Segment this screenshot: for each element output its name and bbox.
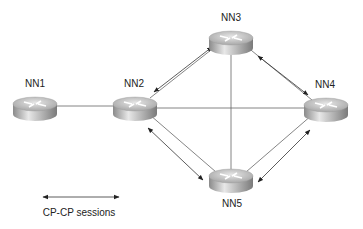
legend-label: CP-CP sessions xyxy=(43,207,116,218)
node-label-nn1: NN1 xyxy=(25,78,45,89)
link-nn2-nn5 xyxy=(150,115,216,172)
physical-links xyxy=(57,46,312,172)
cp-cp-arrow-nn2-nn3 xyxy=(154,47,212,92)
node-label-nn2: NN2 xyxy=(124,78,144,89)
cp-cp-session-arrows xyxy=(43,47,310,197)
router-icon-nn4 xyxy=(304,98,348,122)
node-label-nn5: NN5 xyxy=(222,198,242,209)
router-icon-nn5 xyxy=(209,169,253,193)
router-icon-nn3 xyxy=(209,31,253,55)
node-label-nn3: NN3 xyxy=(221,12,241,23)
link-nn3-nn4 xyxy=(246,46,312,100)
router-icon-nn1 xyxy=(13,97,57,121)
link-nn5-nn4 xyxy=(246,115,312,172)
node-label-nn4: NN4 xyxy=(315,79,335,90)
network-diagram xyxy=(0,0,363,229)
router-icon-nn2 xyxy=(113,97,157,121)
cp-cp-arrow-nn3-nn4 xyxy=(258,56,308,95)
cp-cp-arrow-nn5-nn4 xyxy=(258,130,310,182)
link-nn2-nn3 xyxy=(150,46,216,98)
